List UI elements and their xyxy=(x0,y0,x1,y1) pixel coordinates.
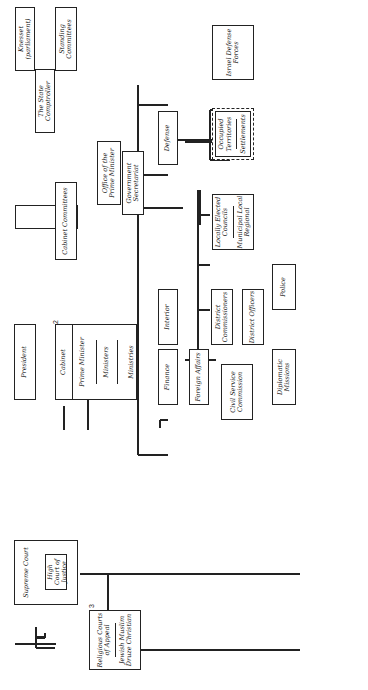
courts-overlay xyxy=(0,0,368,690)
